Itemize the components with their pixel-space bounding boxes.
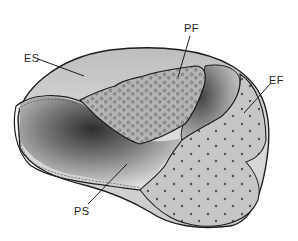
- label-ef: EF: [269, 74, 284, 86]
- membrane-diagram: ES PF EF PS: [0, 0, 298, 241]
- label-pf: PF: [184, 22, 199, 34]
- label-ps: PS: [74, 205, 89, 217]
- label-es: ES: [24, 52, 39, 64]
